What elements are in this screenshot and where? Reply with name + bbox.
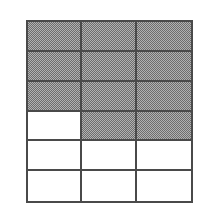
area-model-grid [26, 20, 193, 203]
figure-canvas [0, 0, 215, 220]
grid-cell-r4-c1 [28, 112, 82, 142]
grid-cell-r3-c1 [28, 82, 82, 112]
grid-cell-r6-c2 [82, 171, 136, 201]
grid-cell-r5-c2 [82, 141, 136, 171]
grid-cell-r1-c1 [28, 22, 82, 52]
grid-cell-r2-c2 [82, 52, 136, 82]
grid-cell-r2-c1 [28, 52, 82, 82]
grid-cell-r6-c3 [137, 171, 191, 201]
grid-cell-r2-c3 [137, 52, 191, 82]
grid-cell-r5-c1 [28, 141, 82, 171]
grid-cell-r4-c3 [137, 112, 191, 142]
grid-cell-r1-c3 [137, 22, 191, 52]
grid-cell-r6-c1 [28, 171, 82, 201]
grid-cell-r1-c2 [82, 22, 136, 52]
grid-cell-r3-c3 [137, 82, 191, 112]
grid-cell-r3-c2 [82, 82, 136, 112]
grid-cell-r5-c3 [137, 141, 191, 171]
grid-cell-r4-c2 [82, 112, 136, 142]
